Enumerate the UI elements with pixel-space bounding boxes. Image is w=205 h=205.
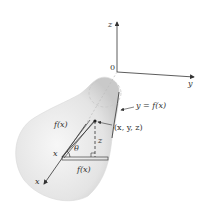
point-xyz (93, 119, 96, 122)
x-position-label: x (53, 150, 58, 158)
point-label: (x, y, z) (114, 124, 143, 132)
origin-label: 0 (110, 64, 115, 72)
surface-of-revolution-diagram: z y x 0 y = f(x) (x, y, z) f(x) f(x) z θ… (0, 0, 205, 205)
y-axis-label: y (188, 80, 193, 88)
y-axis (117, 72, 194, 77)
curve-label: y = f(x) (136, 102, 166, 110)
base-radius-label: f(x) (77, 166, 91, 174)
x-axis-label: x (35, 178, 40, 186)
z-axis-label: z (108, 21, 112, 29)
slant-radius-label: f(x) (54, 121, 68, 129)
curve-pointer (121, 107, 134, 110)
angle-label: θ (74, 145, 79, 153)
diagram-graphics (0, 0, 205, 205)
solid-surface (16, 77, 119, 201)
height-label: z (98, 137, 102, 145)
